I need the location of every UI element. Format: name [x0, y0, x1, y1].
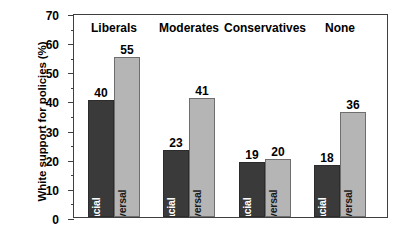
bar-moderates-universal[interactable]: Universal [189, 98, 215, 217]
y-tick-minor [71, 146, 75, 147]
group-label-moderates: Moderates [159, 22, 219, 34]
y-tick-label: 50 [46, 68, 59, 80]
bar-series-label: Racial [317, 197, 328, 217]
y-tick-label: 30 [46, 127, 59, 139]
bar-series-label: Universal [343, 189, 354, 217]
bar-series-label: Racial [166, 197, 177, 217]
y-tick-major: 10 [68, 190, 74, 191]
bar-none-universal[interactable]: Universal [340, 112, 366, 217]
bar-value-none-racial: 18 [320, 152, 333, 164]
bar-liberals-racial[interactable]: Racial [88, 100, 114, 217]
y-tick-label: 10 [46, 185, 59, 197]
y-tick-minor [71, 117, 75, 118]
y-tick-major: 70 [68, 15, 74, 16]
y-tick-major: 50 [68, 73, 74, 74]
bar-series-label: Universal [117, 189, 128, 217]
bar-none-racial[interactable]: Racial [314, 165, 340, 217]
bar-value-liberals-racial: 40 [94, 87, 107, 99]
plot-area: 010203040506070 LiberalsModeratesConserv… [73, 14, 388, 218]
y-tick-major: 60 [68, 44, 74, 45]
y-tick-label: 60 [46, 39, 59, 51]
group-label-liberals: Liberals [91, 22, 137, 34]
y-tick-minor [71, 175, 75, 176]
bar-moderates-racial[interactable]: Racial [163, 150, 189, 217]
bar-value-moderates-racial: 23 [169, 137, 182, 149]
bar-value-liberals-universal: 55 [120, 44, 133, 56]
bar-liberals-universal[interactable]: Universal [114, 57, 140, 217]
bar-conservatives-universal[interactable]: Universal [265, 159, 291, 217]
y-tick-label: 0 [52, 214, 59, 226]
bar-series-label: Racial [91, 197, 102, 217]
bar-value-none-universal: 36 [346, 99, 359, 111]
y-tick-major: 40 [68, 102, 74, 103]
y-tick-minor [71, 88, 75, 89]
bar-series-label: Universal [268, 189, 279, 217]
bar-value-conservatives-racial: 19 [245, 149, 258, 161]
y-tick-major: 30 [68, 132, 74, 133]
group-label-none: None [325, 22, 355, 34]
bar-value-moderates-universal: 41 [195, 85, 208, 97]
y-tick-label: 40 [46, 97, 59, 109]
y-tick-minor [71, 59, 75, 60]
y-tick-label: 70 [46, 10, 59, 22]
y-tick-major: 20 [68, 161, 74, 162]
bar-conservatives-racial[interactable]: Racial [239, 162, 265, 217]
y-tick-minor [71, 30, 75, 31]
bar-series-label: Universal [192, 189, 203, 217]
bar-value-conservatives-universal: 20 [271, 146, 284, 158]
bar-series-label: Racial [242, 197, 253, 217]
bar-chart: White support for policies (%) 010203040… [0, 0, 413, 243]
y-axis-title: White support for policies (%) [28, 0, 56, 243]
y-tick-major: 0 [68, 219, 74, 220]
y-tick-label: 20 [46, 156, 59, 168]
group-label-conservatives: Conservatives [224, 22, 306, 34]
y-tick-minor [71, 204, 75, 205]
